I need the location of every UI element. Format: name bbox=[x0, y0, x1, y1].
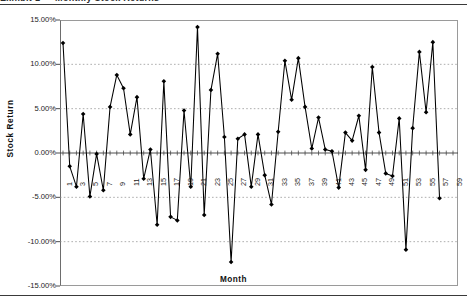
data-point-marker bbox=[108, 105, 113, 110]
data-point-marker bbox=[121, 86, 126, 91]
data-point-marker bbox=[296, 56, 301, 61]
x-tick-label: 21 bbox=[200, 178, 208, 186]
data-point-marker bbox=[323, 147, 328, 152]
x-tick-label: 55 bbox=[429, 178, 437, 186]
data-point-marker bbox=[410, 126, 415, 131]
x-tick-label: 47 bbox=[375, 178, 383, 186]
series-markers bbox=[61, 25, 442, 265]
data-point-marker bbox=[404, 247, 409, 252]
data-point-marker bbox=[229, 260, 234, 265]
cropped-document-heading: Exhibit 1 — Monthly Stock Returns bbox=[0, 0, 467, 3]
data-point-marker bbox=[215, 51, 220, 56]
data-point-marker bbox=[377, 130, 382, 135]
series-line bbox=[63, 27, 440, 262]
data-point-marker bbox=[370, 65, 375, 70]
x-tick-label: 11 bbox=[133, 179, 141, 186]
x-tick-label: 3 bbox=[79, 182, 87, 186]
data-point-marker bbox=[195, 25, 200, 30]
x-tick-label: 39 bbox=[321, 178, 329, 186]
data-point-marker bbox=[202, 213, 207, 218]
x-tick-label: 59 bbox=[456, 178, 464, 186]
data-point-marker bbox=[148, 147, 153, 152]
x-tick-label: 5 bbox=[92, 182, 100, 186]
x-tick-label: 19 bbox=[187, 178, 195, 186]
data-point-marker bbox=[431, 40, 436, 45]
x-tick-label: 1 bbox=[66, 182, 74, 186]
x-tick-label: 15 bbox=[160, 178, 168, 186]
y-tick-label: 10.00% bbox=[4, 60, 56, 68]
x-tick-label: 45 bbox=[361, 178, 369, 186]
x-tick-label: 27 bbox=[240, 178, 248, 186]
data-point-marker bbox=[276, 129, 281, 134]
y-tick-label: 5.00% bbox=[4, 105, 56, 113]
x-tick-label: 25 bbox=[227, 178, 235, 186]
x-tick-label: 7 bbox=[106, 182, 114, 186]
stock-return-line-chart: Stock Return 15.00%10.00%5.00%0.00%-5.00… bbox=[0, 6, 467, 294]
y-tick-label: 0.00% bbox=[4, 149, 56, 157]
data-point-marker bbox=[175, 218, 180, 223]
data-point-marker bbox=[289, 98, 294, 103]
data-point-marker bbox=[357, 113, 362, 118]
data-point-marker bbox=[81, 112, 86, 117]
data-point-marker bbox=[162, 79, 167, 84]
data-point-marker bbox=[114, 73, 119, 78]
x-tick-label: 37 bbox=[308, 178, 316, 186]
x-tick-label: 23 bbox=[214, 178, 222, 186]
x-tick-label: 31 bbox=[267, 178, 275, 186]
x-axis-title: Month bbox=[0, 275, 467, 284]
x-tick-label: 13 bbox=[146, 178, 154, 186]
x-tick-label: 51 bbox=[402, 178, 410, 186]
data-point-marker bbox=[135, 95, 140, 100]
data-point-marker bbox=[437, 196, 442, 201]
x-tick-label: 9 bbox=[119, 182, 127, 186]
top-horizontal-rule bbox=[0, 4, 467, 5]
data-point-marker bbox=[155, 223, 160, 228]
data-point-marker bbox=[209, 88, 214, 93]
y-tick-label: -10.00% bbox=[4, 238, 56, 246]
y-tick-label: -5.00% bbox=[4, 193, 56, 201]
bottom-horizontal-rule bbox=[0, 295, 467, 296]
x-axis-tick-labels: 1357911131517192123252729313335373941434… bbox=[60, 156, 458, 190]
data-point-marker bbox=[222, 135, 227, 140]
data-point-marker bbox=[269, 202, 274, 207]
data-point-marker bbox=[128, 132, 133, 137]
data-point-marker bbox=[61, 41, 66, 46]
plot-series-svg bbox=[60, 20, 458, 286]
x-tick-label: 53 bbox=[415, 178, 423, 186]
data-point-marker bbox=[316, 115, 321, 120]
data-point-marker bbox=[397, 116, 402, 121]
y-axis-tick-labels: 15.00%10.00%5.00%0.00%-5.00%-10.00%-15.0… bbox=[0, 20, 56, 286]
data-point-marker bbox=[424, 110, 429, 115]
x-tick-label: 17 bbox=[173, 178, 181, 186]
x-tick-label: 43 bbox=[348, 178, 356, 186]
gridlines bbox=[56, 20, 458, 286]
data-point-marker bbox=[309, 146, 314, 151]
x-tick-label: 29 bbox=[254, 178, 262, 186]
data-point-marker bbox=[417, 50, 422, 55]
x-tick-label: 41 bbox=[335, 178, 343, 186]
x-tick-label: 49 bbox=[388, 178, 396, 186]
data-point-marker bbox=[168, 215, 173, 220]
y-tick-label: 15.00% bbox=[4, 16, 56, 24]
data-point-marker bbox=[88, 194, 93, 199]
x-tick-label: 57 bbox=[442, 178, 450, 186]
data-point-marker bbox=[283, 58, 288, 63]
data-point-marker bbox=[256, 132, 261, 137]
x-tick-label: 33 bbox=[281, 178, 289, 186]
x-tick-label: 35 bbox=[294, 178, 302, 186]
